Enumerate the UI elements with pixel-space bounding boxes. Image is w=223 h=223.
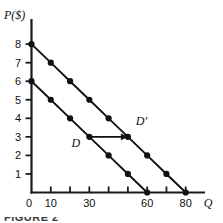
demand-curve-d-prime-markers bbox=[28, 41, 188, 196]
data-point-marker bbox=[144, 189, 150, 195]
y-tick-label: 8 bbox=[15, 38, 21, 50]
figure-caption-text: FIGURE 2 bbox=[4, 217, 80, 223]
demand-shift-arrow bbox=[89, 133, 128, 140]
y-tick-label: 1 bbox=[15, 168, 21, 180]
data-point-marker bbox=[67, 78, 73, 84]
y-tick-label: 7 bbox=[15, 57, 21, 69]
data-point-marker bbox=[48, 97, 54, 103]
data-point-marker bbox=[163, 171, 169, 177]
data-point-marker bbox=[125, 171, 131, 177]
data-point-marker bbox=[86, 97, 92, 103]
y-tick-label: 4 bbox=[15, 112, 21, 124]
figure-container: 12345678 10306080 0 P($) Q DD′ FIGURE 2 bbox=[0, 0, 223, 223]
curve-label: D bbox=[71, 136, 81, 150]
demand-shift-chart: 12345678 10306080 0 P($) Q DD′ bbox=[0, 0, 223, 223]
data-point-marker bbox=[144, 152, 150, 158]
x-tick-label: 80 bbox=[180, 197, 192, 209]
data-point-marker bbox=[28, 78, 34, 84]
y-tick-label: 6 bbox=[15, 75, 21, 87]
x-axis-title: Q bbox=[204, 196, 213, 210]
data-point-marker bbox=[48, 60, 54, 66]
data-point-marker bbox=[106, 115, 112, 121]
y-tick-label: 2 bbox=[15, 149, 21, 161]
x-tick-label: 30 bbox=[83, 197, 95, 209]
y-tick-label: 3 bbox=[15, 131, 21, 143]
x-tick-label: 60 bbox=[141, 197, 153, 209]
data-point-marker bbox=[183, 189, 189, 195]
data-point-marker bbox=[106, 152, 112, 158]
curve-label: D′ bbox=[135, 114, 148, 128]
demand-curves-group bbox=[28, 41, 188, 196]
data-point-marker bbox=[28, 41, 34, 47]
origin-tick-label: 0 bbox=[26, 197, 32, 209]
data-point-marker bbox=[67, 115, 73, 121]
y-axis-tick-labels: 12345678 bbox=[15, 38, 21, 180]
y-axis-title: P($) bbox=[3, 8, 25, 22]
y-tick-label: 5 bbox=[15, 94, 21, 106]
x-tick-label: 10 bbox=[45, 197, 57, 209]
x-axis-tick-labels: 10306080 bbox=[45, 197, 192, 209]
figure-caption: FIGURE 2 bbox=[4, 217, 80, 223]
